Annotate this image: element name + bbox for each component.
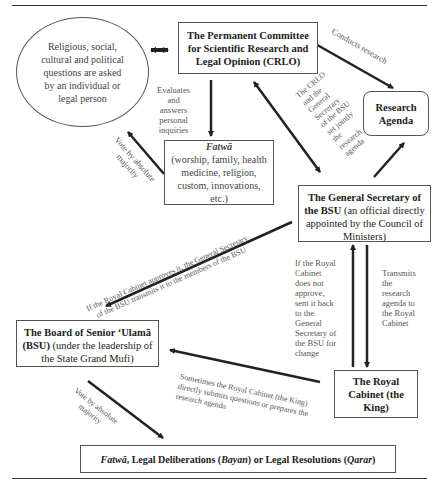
question-node: Religious, social, cultural and politica…: [16, 17, 149, 127]
question-text: Religious, social, cultural and politica…: [39, 40, 126, 105]
label-transmits: Transmits the research agenda to the Roy…: [382, 268, 416, 328]
bsu-detail: (under the leadership of the State Grand…: [41, 340, 152, 364]
arrow-gs-research: [374, 143, 404, 177]
fatwa-title: Fatwā: [206, 141, 232, 152]
fatwa-detail: (worship, family, health medicine, relig…: [169, 153, 269, 205]
fatwa-node: Fatwā (worship, family, health medicine,…: [164, 140, 274, 205]
crlo-node: The Permanent Committee for Scientific R…: [178, 22, 318, 74]
bsu-node: The Board of Senior ‘Ulamā (BSU) (under …: [16, 320, 159, 367]
general-secretary-node: The General Secretary of the BSU (an off…: [298, 185, 431, 242]
research-agenda-node: Research Agenda: [363, 91, 429, 136]
label-evaluates: Evaluates and answers personal inquiries: [157, 85, 190, 135]
crlo-title: The Permanent Committee for Scientific R…: [183, 29, 313, 68]
research-agenda-title: Research Agenda: [368, 101, 424, 127]
royal-cabinet-node: The Royal Cabinet (the King): [334, 370, 418, 418]
output-node: Fatwā, Legal Deliberations (Bayan) or Le…: [80, 445, 396, 473]
label-not-approve: If the Royal Cabinet does not approve, s…: [295, 258, 336, 358]
output-fatwa: Fatwā: [101, 454, 127, 465]
royal-cabinet-title: The Royal Cabinet (the King): [339, 375, 413, 414]
